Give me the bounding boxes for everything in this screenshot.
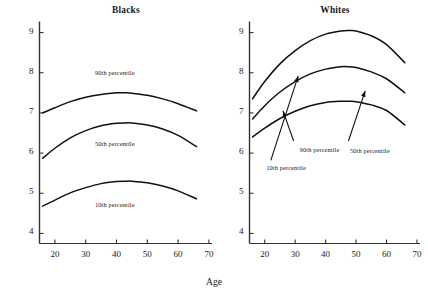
curve-whites-10th-percentile [253,101,405,137]
x-tick-label-blacks-60: 60 [164,249,192,259]
annotation-arrow-whites-1 [348,91,365,141]
y-tick-label-whites-9: 9 [224,26,244,36]
curve-whites-90th-percentile [253,30,405,98]
y-tick-label-blacks-9: 9 [14,26,34,36]
series-label-blacks-0: 90th percentile [95,69,135,76]
y-tick-label-blacks-6: 6 [14,146,34,156]
x-tick-label-whites-70: 70 [403,249,428,259]
y-tick-label-whites-8: 8 [224,66,244,76]
y-tick-label-blacks-7: 7 [14,106,34,116]
x-tick-label-blacks-30: 30 [72,249,100,259]
x-tick-label-blacks-50: 50 [133,249,161,259]
x-tick-label-blacks-20: 20 [41,249,69,259]
y-tick-label-whites-6: 6 [224,146,244,156]
curve-blacks-90th-percentile [43,93,197,113]
x-tick-label-blacks-40: 40 [103,249,131,259]
y-tick-label-whites-4: 4 [224,226,244,236]
panel-title-whites: Whites [250,5,421,15]
series-label-whites-1: 50th percentile [350,147,390,154]
series-label-blacks-2: 10th percentile [95,201,135,208]
y-tick-label-blacks-8: 8 [14,66,34,76]
series-label-whites-2: 10th percentile [266,164,306,171]
x-tick-label-whites-40: 40 [312,249,340,259]
y-tick-label-blacks-5: 5 [14,186,34,196]
x-tick-label-blacks-70: 70 [195,249,223,259]
panel-title-blacks: Blacks [40,5,213,15]
x-tick-label-whites-60: 60 [373,249,401,259]
x-tick-label-whites-20: 20 [251,249,279,259]
x-tick-label-whites-50: 50 [342,249,370,259]
figure-canvas: Logarithm of regular-sector monthly earn… [0,0,428,302]
annotation-arrowhead-whites-1 [361,91,365,97]
y-tick-label-whites-5: 5 [224,186,244,196]
curve-whites-50th-percentile [253,66,405,118]
series-label-whites-0: 90th percentile [300,146,340,153]
y-tick-label-blacks-4: 4 [14,226,34,236]
series-label-blacks-1: 50th percentile [95,140,135,147]
x-tick-label-whites-30: 30 [281,249,309,259]
y-tick-label-whites-7: 7 [224,106,244,116]
